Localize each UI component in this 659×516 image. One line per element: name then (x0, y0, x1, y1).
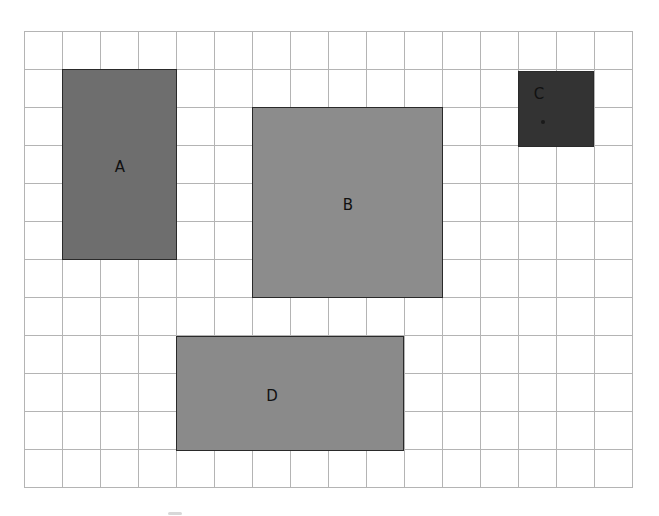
region-a: A (62, 69, 177, 260)
region-c: C (518, 71, 594, 147)
scan-artifact (168, 512, 182, 515)
grid: A B C D (24, 31, 633, 488)
region-c-dot (541, 120, 545, 124)
region-d-label: D (266, 389, 278, 404)
region-d: D (176, 336, 404, 451)
region-a-label: A (115, 160, 125, 175)
region-b: B (252, 107, 443, 298)
region-b-label: B (343, 198, 353, 213)
region-c-label: C (534, 87, 544, 102)
